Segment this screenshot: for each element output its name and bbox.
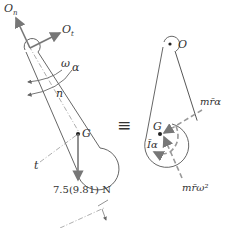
label-On: On	[4, 3, 18, 17]
label-Ot: Ot	[62, 24, 74, 38]
left-pendulum	[16, 18, 119, 190]
diagram-canvas	[0, 0, 226, 228]
label-O-right: O	[178, 39, 187, 50]
label-G-left: G	[82, 128, 91, 139]
label-n: n	[56, 88, 63, 99]
label-weight: 7.5(9.81) N	[53, 185, 111, 195]
right-pendulum	[145, 36, 202, 178]
label-mrw2: mr̄ω²	[182, 183, 208, 193]
label-G-right: G	[153, 121, 162, 132]
label-t: t	[34, 160, 38, 171]
label-mra: mr̄α	[200, 97, 221, 107]
label-alpha: α	[72, 62, 79, 73]
label-omega: ω	[61, 58, 70, 69]
equivalence-sign: ≡	[117, 117, 131, 134]
label-Ia: Īα	[147, 140, 158, 150]
next-figure-fragment	[60, 200, 108, 228]
